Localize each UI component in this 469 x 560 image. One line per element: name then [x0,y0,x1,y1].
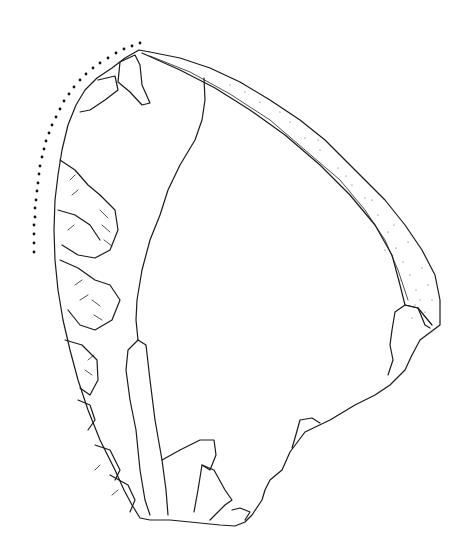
central-ridge [136,78,205,340]
bottom-scar-2 [202,465,232,520]
edge-scar-bottom [232,508,250,520]
dotted-arc-marker [33,42,142,254]
cortex-band-inner [142,53,432,325]
cortex-band-middle [150,56,408,300]
artifact-drawing [0,0,469,560]
bottom-scar-1 [162,440,216,512]
retouch-scars [58,55,150,512]
lower-facet [126,340,168,515]
